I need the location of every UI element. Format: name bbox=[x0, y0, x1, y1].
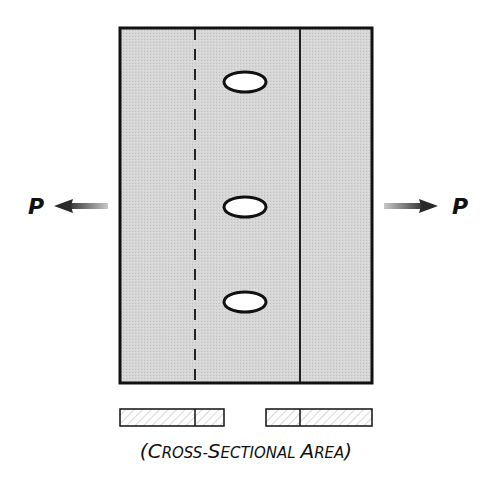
force-label-right: P bbox=[452, 194, 468, 219]
arrow-head-right-icon bbox=[419, 199, 438, 213]
cross-section-bar-left bbox=[120, 409, 224, 426]
bolted-plate-diagram: P P (CROSS-SECTIONAL AREA) bbox=[0, 0, 497, 483]
arrow-head-left-icon bbox=[54, 199, 73, 213]
arrow-shaft-left-icon bbox=[66, 203, 108, 209]
bolt-hole bbox=[224, 197, 266, 217]
cross-section-caption: (CROSS-SECTIONAL AREA) bbox=[140, 439, 352, 463]
cross-section-bar-right bbox=[266, 409, 372, 426]
cross-section: (CROSS-SECTIONAL AREA) bbox=[120, 409, 372, 463]
arrow-shaft-right-icon bbox=[384, 203, 426, 209]
bolt-hole bbox=[224, 292, 266, 312]
force-label-left: P bbox=[28, 194, 44, 219]
force-right: P bbox=[384, 194, 468, 219]
bolt-hole bbox=[224, 72, 266, 92]
force-left: P bbox=[28, 194, 108, 219]
